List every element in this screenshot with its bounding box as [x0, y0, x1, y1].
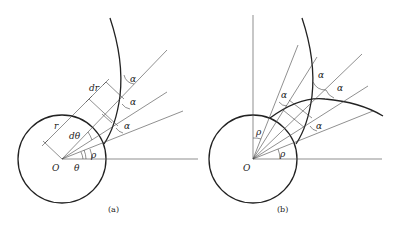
angle-arc-dtheta	[88, 132, 92, 140]
label-rho-upper: ρ	[255, 127, 262, 137]
label-alpha-4-b: α	[316, 121, 322, 131]
angle-arc-rho-1	[84, 150, 86, 159]
label-rho-a: ρ	[90, 150, 97, 160]
spiral-curve-steep-b	[296, 18, 313, 144]
label-alpha-2-a: α	[130, 97, 136, 107]
label-alpha-1-b: α	[281, 90, 287, 100]
caption-b: (b)	[277, 205, 288, 214]
angle-arc-alpha-1-b	[279, 102, 287, 106]
label-origin-b: O	[243, 163, 251, 173]
ray-2-b	[253, 57, 317, 159]
cross-line-2-b	[289, 100, 312, 118]
angle-arc-alpha-2	[122, 104, 130, 109]
spiral-curve-flat-b	[270, 99, 383, 118]
panel-a: O θ ρ dθ r dr α α α (a)	[18, 18, 198, 214]
ext-line-r-start	[43, 141, 62, 159]
angle-arc-alpha-3-b	[326, 90, 334, 98]
angle-arc-alpha-2-b	[313, 82, 326, 90]
angle-arc-rho-upper	[253, 138, 261, 139]
label-alpha-2-b: α	[318, 70, 324, 80]
label-origin-a: O	[52, 163, 60, 173]
label-alpha-3-a: α	[124, 121, 130, 131]
figure-canvas: O θ ρ dθ r dr α α α (a)	[0, 0, 400, 236]
label-alpha-1-a: α	[130, 74, 136, 84]
label-alpha-3-b: α	[337, 83, 343, 93]
label-dtheta: dθ	[69, 131, 81, 141]
cross-line-1-b	[283, 110, 305, 128]
spiral-curve-a	[104, 18, 121, 144]
ray-1-a	[62, 50, 167, 159]
angle-arc-alpha-3	[116, 128, 123, 133]
ray-2-a	[62, 92, 167, 159]
label-dr: dr	[89, 83, 100, 93]
label-theta: θ	[74, 163, 80, 173]
angle-arc-rho-2	[81, 152, 83, 159]
label-r: r	[54, 121, 59, 131]
ray-4-b	[253, 86, 368, 159]
caption-a: (a)	[108, 205, 119, 214]
panel-b: O ρ ρ α α α α (b)	[209, 15, 383, 214]
ext-line-r-end	[89, 99, 118, 126]
label-rho-lower: ρ	[279, 149, 286, 159]
ray-3-b	[253, 54, 362, 159]
